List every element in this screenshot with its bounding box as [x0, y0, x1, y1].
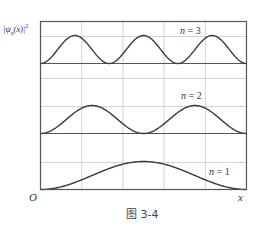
curve-n2	[41, 106, 247, 134]
y-axis-label-mid: (x)|	[13, 24, 25, 34]
label-n1-eq: =	[214, 166, 225, 177]
origin-label: O	[29, 191, 37, 203]
label-n3-eq: =	[185, 25, 196, 36]
label-n2-val: 2	[197, 90, 202, 101]
label-n2-eq: =	[186, 90, 197, 101]
label-n3: n = 3	[180, 25, 201, 36]
figure-caption: 图 3-4	[126, 205, 158, 221]
plot-area	[0, 0, 260, 235]
label-n1-val: 1	[225, 166, 230, 177]
x-axis-label: x	[238, 191, 243, 203]
y-axis-label-prefix: |ψ	[3, 24, 11, 34]
probability-density-figure: |ψn(x)|2 n = 3 n = 2 n = 1 O x 图 3-4	[0, 0, 260, 235]
plot-frame	[41, 22, 247, 190]
label-n2: n = 2	[181, 90, 202, 101]
panel-baselines	[41, 64, 247, 134]
y-axis-label: |ψn(x)|2	[3, 23, 28, 36]
y-axis-label-sup: 2	[25, 23, 28, 29]
label-n3-val: 3	[196, 25, 201, 36]
label-n1: n = 1	[209, 166, 230, 177]
curve-n3	[41, 36, 247, 64]
grid-lines	[41, 22, 247, 190]
